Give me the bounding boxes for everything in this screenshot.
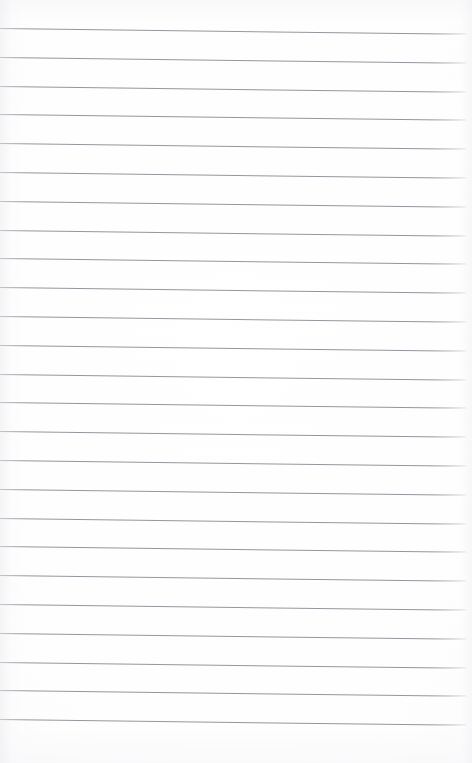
rule-line <box>0 719 466 726</box>
writing-area[interactable] <box>0 28 466 720</box>
lined-paper-page <box>0 0 472 763</box>
